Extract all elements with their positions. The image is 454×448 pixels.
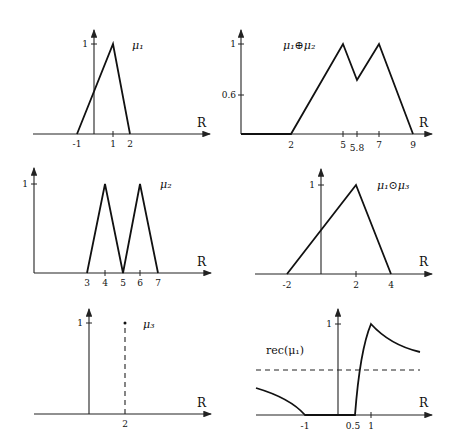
svg-text:0.6: 0.6 xyxy=(222,90,237,100)
svg-text:1: 1 xyxy=(326,319,332,329)
svg-text:4: 4 xyxy=(388,280,394,290)
svg-text:2: 2 xyxy=(353,280,359,290)
svg-text:3: 3 xyxy=(84,278,90,288)
svg-text:R: R xyxy=(419,255,429,269)
svg-text:1: 1 xyxy=(22,179,28,189)
svg-text:μ₁: μ₁ xyxy=(132,39,144,52)
svg-text:5: 5 xyxy=(340,140,346,150)
svg-text:6: 6 xyxy=(137,278,143,288)
svg-text:7: 7 xyxy=(155,278,161,288)
panel-rec-mu1: 1 -1 0.5 1 rec(μ₁) R xyxy=(256,309,432,431)
svg-text:0.5: 0.5 xyxy=(346,421,361,431)
svg-text:μ₃: μ₃ xyxy=(143,318,155,331)
svg-text:2: 2 xyxy=(288,140,294,150)
svg-text:5: 5 xyxy=(120,278,126,288)
svg-text:1: 1 xyxy=(77,318,83,328)
svg-text:1: 1 xyxy=(82,39,88,49)
svg-text:1: 1 xyxy=(110,139,116,149)
svg-text:4: 4 xyxy=(102,278,108,288)
panel-mu1-plus-mu2: 1 0.6 2 5 5.8 7 9 μ₁⊕μ₂ R xyxy=(222,30,432,153)
svg-text:R: R xyxy=(419,396,429,410)
svg-text:μ₂: μ₂ xyxy=(160,178,172,191)
svg-text:1: 1 xyxy=(230,39,236,49)
svg-text:R: R xyxy=(419,116,429,130)
svg-text:7: 7 xyxy=(376,140,382,150)
svg-text:5.8: 5.8 xyxy=(350,143,365,153)
svg-text:R: R xyxy=(197,116,207,130)
svg-text:μ₁⊙μ₃: μ₁⊙μ₃ xyxy=(377,179,409,192)
panel-mu1-odot-mu3: 1 -2 2 4 μ₁⊙μ₃ R xyxy=(255,169,432,290)
panel-mu1: 1 -1 1 2 μ₁ R xyxy=(33,30,210,149)
svg-text:2: 2 xyxy=(127,139,133,149)
svg-text:-2: -2 xyxy=(283,280,292,290)
svg-text:1: 1 xyxy=(368,421,374,431)
svg-text:μ₁⊕μ₂: μ₁⊕μ₂ xyxy=(283,39,315,52)
svg-text:2: 2 xyxy=(122,419,128,429)
svg-text:R: R xyxy=(197,396,207,410)
svg-text:-1: -1 xyxy=(301,421,310,431)
svg-text:1: 1 xyxy=(309,180,315,190)
panel-mu3: 1 2 μ₃ R xyxy=(34,309,211,429)
panel-mu2: 1 3 4 5 6 7 μ₂ R xyxy=(22,168,211,288)
fuzzy-plots: 1 -1 1 2 μ₁ R 1 0.6 2 5 5.8 7 9 μ₁⊕μ₂ R … xyxy=(0,0,454,448)
svg-text:R: R xyxy=(197,255,207,269)
svg-text:rec(μ₁): rec(μ₁) xyxy=(266,344,304,357)
svg-text:9: 9 xyxy=(410,140,416,150)
svg-text:-1: -1 xyxy=(73,139,82,149)
